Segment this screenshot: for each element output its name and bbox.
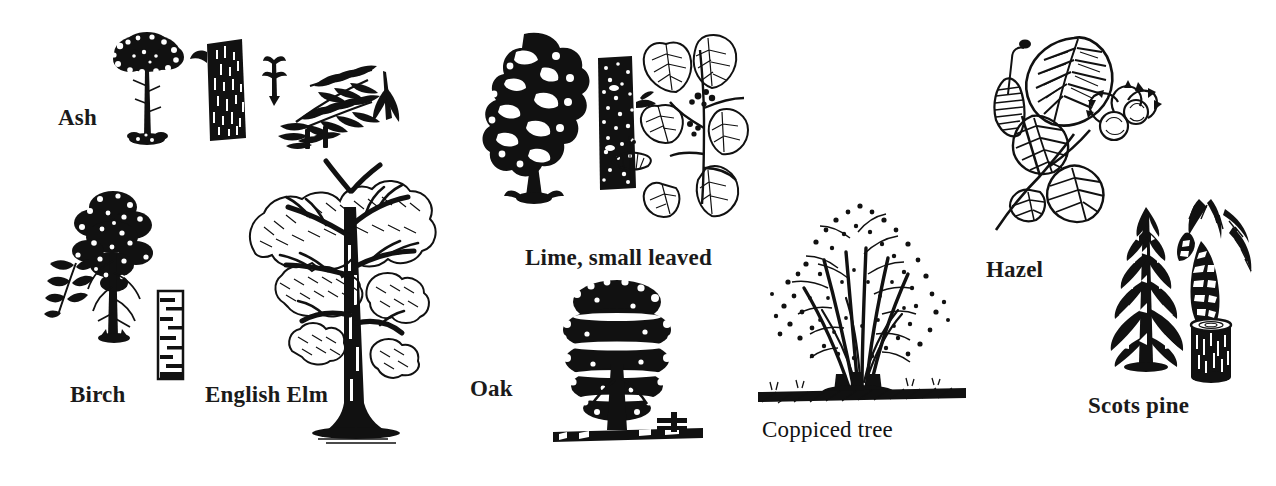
figure-oak bbox=[553, 272, 708, 457]
hazel-nuts-in-husk bbox=[1086, 80, 1162, 140]
hazel-leaf-upper bbox=[1026, 37, 1112, 125]
hazel-leaf-small bbox=[1010, 190, 1045, 222]
pine-log-section bbox=[1191, 319, 1231, 383]
label-oak: Oak bbox=[470, 377, 513, 400]
figure-lime bbox=[480, 28, 770, 223]
illustration-plate: Ash bbox=[0, 0, 1276, 486]
ash-tree-silhouette bbox=[111, 32, 184, 145]
lime-tree-silhouette bbox=[483, 33, 590, 204]
label-hazel: Hazel bbox=[986, 258, 1043, 281]
pine-cone-and-needles bbox=[1177, 199, 1251, 335]
figure-birch bbox=[50, 165, 195, 380]
ash-bark-trunk bbox=[190, 39, 246, 141]
birch-leaf-sprig bbox=[44, 259, 98, 318]
coppice-multi-stem-stool bbox=[758, 203, 966, 403]
label-lime-small-leaved: Lime, small leaved bbox=[525, 246, 712, 269]
birch-white-bark-trunk bbox=[158, 291, 183, 379]
label-english-elm: English Elm bbox=[205, 383, 328, 406]
ash-compound-leaf bbox=[278, 65, 380, 149]
oak-tree-silhouette bbox=[553, 278, 703, 442]
label-coppiced-tree: Coppiced tree bbox=[762, 418, 893, 441]
label-birch: Birch bbox=[70, 383, 126, 406]
label-scots-pine: Scots pine bbox=[1088, 394, 1189, 417]
figure-scots-pine bbox=[1095, 195, 1275, 385]
pine-conifer-silhouette bbox=[1111, 207, 1183, 372]
label-ash: Ash bbox=[58, 106, 97, 129]
figure-ash bbox=[100, 26, 400, 151]
figure-coppiced-tree bbox=[758, 178, 968, 408]
ash-bud-sprig bbox=[262, 56, 287, 106]
